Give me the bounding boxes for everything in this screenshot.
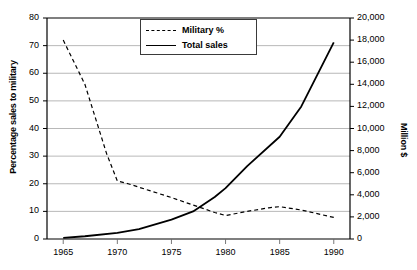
legend-item-total-sales: Total sales [146,38,228,52]
x-tick: 1985 [260,247,300,257]
y-left-tick: 10 [13,205,39,215]
y-right-tick: 18,000 [357,34,397,44]
legend-solid-line-icon [146,41,176,50]
y-left-tick: 50 [13,95,39,105]
y-left-tick: 20 [13,178,39,188]
y-right-tick: 20,000 [357,12,397,22]
y-right-tick: 10,000 [357,123,397,133]
legend-label-total-sales: Total sales [182,40,228,50]
y-right-tick: 14,000 [357,78,397,88]
legend-dashed-line-icon [146,26,176,35]
chart-legend: Military % Total sales [140,19,257,55]
x-axis-tick-marks [63,239,334,244]
x-tick: 1990 [314,247,354,257]
y-right-tick: 16,000 [357,56,397,66]
legend-label-military: Military % [182,25,224,35]
y-left-tick: 80 [13,12,39,22]
y-right-tick: 2,000 [357,211,397,221]
x-tick: 1980 [206,247,246,257]
y-right-tick: 12,000 [357,100,397,110]
chart-container: Percentage sales to military Million $ 0… [0,0,417,270]
x-tick: 1965 [43,247,83,257]
x-tick: 1975 [151,247,191,257]
y-left-tick: 70 [13,40,39,50]
y-left-tick: 30 [13,150,39,160]
data-series-layer [63,40,334,238]
y-left-tick: 60 [13,67,39,77]
y-left-tick: 0 [13,233,39,243]
x-tick: 1970 [97,247,137,257]
y-right-tick: 0 [357,233,397,243]
y-right-tick: 6,000 [357,167,397,177]
y-right-tick: 8,000 [357,145,397,155]
legend-item-military: Military % [146,23,224,37]
y-right-tick: 4,000 [357,189,397,199]
y-left-tick: 40 [13,123,39,133]
series-line-total-sales [63,42,334,238]
